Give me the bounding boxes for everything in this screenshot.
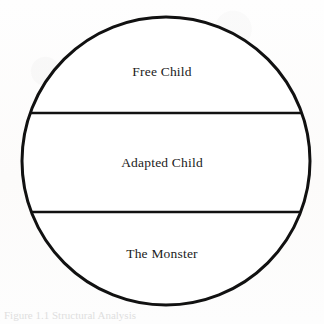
segment-label-adapted-child: Adapted Child	[0, 155, 324, 171]
figure-page: Free Child Adapted Child The Monster Fig…	[0, 0, 324, 324]
segment-label-free-child: Free Child	[0, 64, 324, 80]
figure-caption-text: Figure 1.1 Structural Analysis	[4, 312, 244, 321]
segment-label-the-monster: The Monster	[0, 246, 324, 262]
figure-caption-clipped: Figure 1.1 Structural Analysis	[4, 312, 244, 324]
